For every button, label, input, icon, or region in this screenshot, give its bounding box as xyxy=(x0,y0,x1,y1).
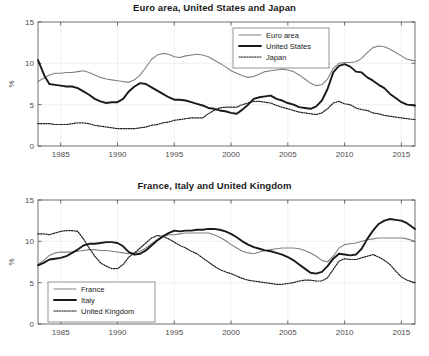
legend-label-united-states: United States xyxy=(266,42,311,51)
y-tick-label: 5 xyxy=(30,101,35,110)
x-tick-label: 2010 xyxy=(336,150,354,159)
x-tick-label: 2015 xyxy=(392,150,410,159)
gridlines xyxy=(38,22,415,146)
x-tick-label: 1985 xyxy=(52,150,70,159)
plot-area-bottom: 1985199019952000200520102015051015%Franc… xyxy=(0,178,429,356)
legend-label-italy: Italy xyxy=(81,296,95,305)
x-tick-label: 2000 xyxy=(222,328,240,337)
plot-area-top: 1985199019952000200520102015051015%Euro … xyxy=(0,0,429,178)
series-line-italy xyxy=(38,219,415,274)
y-tick-label: 10 xyxy=(25,237,34,246)
legend-label-france: France xyxy=(81,285,104,294)
series-line-euro-area xyxy=(38,46,415,86)
x-tick-label: 2000 xyxy=(222,150,240,159)
series-line-united-kingdom xyxy=(38,231,415,285)
x-tick-label: 2015 xyxy=(392,328,410,337)
x-tick-label: 1995 xyxy=(165,150,183,159)
legend: Euro areaUnited StatesJapan xyxy=(233,28,329,68)
x-tick-label: 2010 xyxy=(336,328,354,337)
y-tick-label: 0 xyxy=(30,320,35,329)
x-tick-label: 1985 xyxy=(52,328,70,337)
y-tick-label: 10 xyxy=(25,59,34,68)
chart-panel-top: Euro area, United States and Japan 19851… xyxy=(0,0,429,178)
series-line-japan xyxy=(38,101,415,128)
axes-frame xyxy=(38,22,415,146)
legend: FranceItalyUnited Kingdom xyxy=(48,282,155,322)
y-axis-label: % xyxy=(7,80,16,87)
x-tick-label: 2005 xyxy=(279,328,297,337)
axis-ticks: 1985199019952000200520102015051015 xyxy=(25,18,415,159)
series-group xyxy=(38,46,415,129)
figure-container: Euro area, United States and Japan 19851… xyxy=(0,0,429,356)
x-tick-label: 1995 xyxy=(165,328,183,337)
series-group xyxy=(38,219,415,284)
x-tick-label: 2005 xyxy=(279,150,297,159)
legend-label-japan: Japan xyxy=(266,53,286,62)
legend-label-euro-area: Euro area xyxy=(266,31,300,40)
y-tick-label: 15 xyxy=(25,196,34,205)
y-axis-label: % xyxy=(7,258,16,265)
chart-panel-bottom: France, Italy and United Kingdom 1985199… xyxy=(0,178,429,356)
series-line-france xyxy=(38,233,415,264)
y-tick-label: 0 xyxy=(30,142,35,151)
y-tick-label: 5 xyxy=(30,279,35,288)
x-tick-label: 1990 xyxy=(109,150,127,159)
x-tick-label: 1990 xyxy=(109,328,127,337)
legend-label-united-kingdom: United Kingdom xyxy=(81,307,134,316)
y-tick-label: 15 xyxy=(25,18,34,27)
